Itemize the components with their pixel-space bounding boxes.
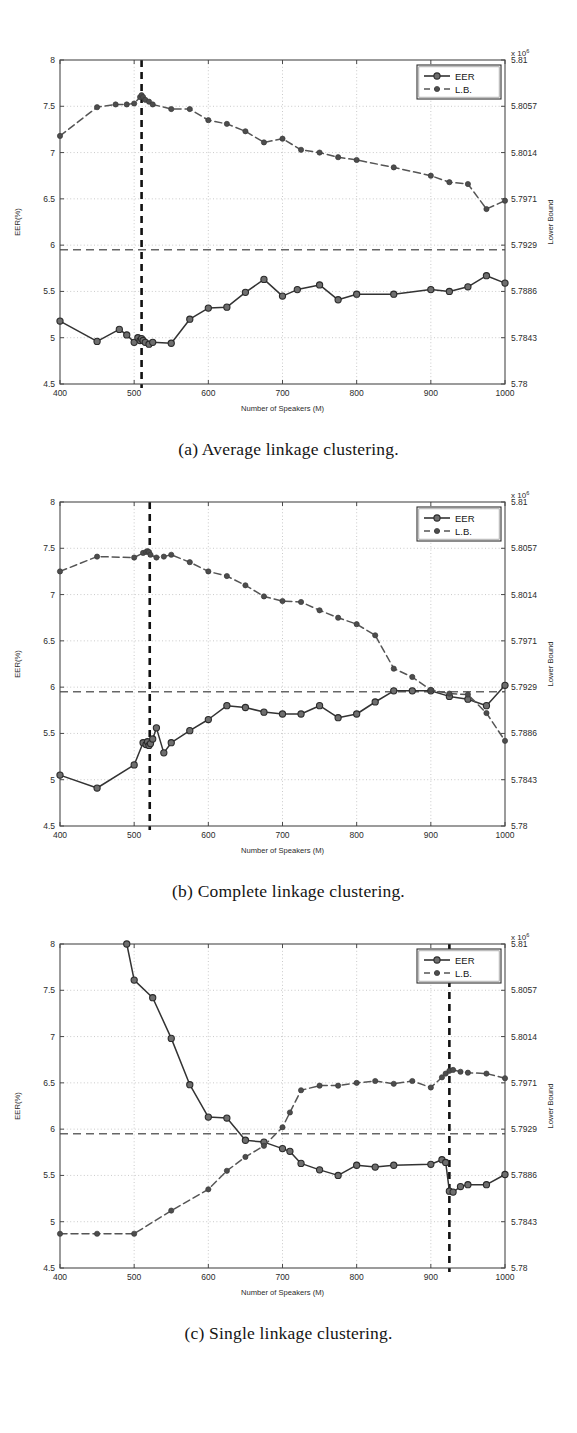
- x-tick-label: 900: [424, 830, 438, 840]
- data-point: [287, 1110, 292, 1115]
- y-tick-label-right: 5.7886: [511, 728, 537, 738]
- y-tick-label-right: 5.7971: [511, 636, 537, 646]
- data-point: [372, 699, 378, 705]
- x-axis-label: Number of Speakers (M): [241, 1288, 325, 1297]
- data-point: [132, 555, 137, 560]
- data-point: [450, 1189, 456, 1195]
- data-point: [298, 599, 303, 604]
- data-point: [391, 1081, 396, 1086]
- fig-a-svg: 400500600700800900100087.576.565.554.55.…: [0, 46, 577, 436]
- data-point: [124, 102, 129, 107]
- data-point: [317, 1083, 322, 1088]
- y-tick-label-left: 5.5: [43, 1170, 55, 1180]
- fig-b-svg: 400500600700800900100087.576.565.554.55.…: [0, 488, 577, 878]
- data-point: [428, 1161, 434, 1167]
- x-axis-label: Number of Speakers (M): [241, 404, 325, 413]
- y-tick-label-left: 4.5: [43, 379, 55, 389]
- data-point: [242, 289, 248, 295]
- x-tick-label: 500: [127, 388, 141, 398]
- x-tick-label: 900: [424, 388, 438, 398]
- legend[interactable]: EERL.B.: [417, 507, 501, 541]
- data-point: [261, 1143, 266, 1148]
- data-point: [57, 133, 62, 138]
- legend-eer-marker: [434, 515, 440, 521]
- data-point: [298, 1160, 304, 1166]
- data-point: [484, 710, 489, 715]
- x-tick-label: 800: [350, 388, 364, 398]
- legend-lb-marker: [434, 970, 439, 975]
- x-tick-label: 400: [53, 830, 67, 840]
- figure-c-caption: (c) Single linkage clustering.: [0, 1323, 577, 1344]
- y-tick-label-left: 8: [50, 497, 55, 507]
- data-point: [94, 1231, 99, 1236]
- data-point: [354, 157, 359, 162]
- data-point: [280, 1125, 285, 1130]
- x-tick-label: 600: [201, 1272, 215, 1282]
- x-tick-label: 900: [424, 1272, 438, 1282]
- data-point: [428, 173, 433, 178]
- data-point: [316, 1167, 322, 1173]
- data-point: [242, 1137, 248, 1143]
- data-point: [409, 688, 415, 694]
- data-point: [336, 155, 341, 160]
- data-point: [94, 785, 100, 791]
- y-tick-label-left: 5.5: [43, 728, 55, 738]
- y-tick-label-left: 6: [50, 1124, 55, 1134]
- data-point: [224, 703, 230, 709]
- data-point: [148, 552, 153, 557]
- data-point: [443, 1159, 449, 1165]
- y-tick-label-right: 5.7843: [511, 775, 537, 785]
- data-point: [335, 715, 341, 721]
- legend-lb-label: L.B.: [455, 84, 472, 95]
- data-point: [187, 560, 192, 565]
- data-point: [410, 1078, 415, 1083]
- y-tick-label-right: 5.78: [511, 1263, 528, 1273]
- data-point: [205, 716, 211, 722]
- y-tick-label-left: 7.5: [43, 543, 55, 553]
- data-point: [447, 180, 452, 185]
- legend[interactable]: EERL.B.: [417, 65, 501, 99]
- grid: [60, 502, 505, 826]
- data-point: [94, 554, 99, 559]
- y-tick-label-right: 5.78: [511, 379, 528, 389]
- data-point: [187, 106, 192, 111]
- legend[interactable]: EERL.B.: [417, 949, 501, 983]
- data-point: [483, 703, 489, 709]
- y-tick-label-left: 5.5: [43, 286, 55, 296]
- data-point: [261, 709, 267, 715]
- legend-lb-marker: [434, 528, 439, 533]
- data-point: [169, 1208, 174, 1213]
- data-point: [132, 1231, 137, 1236]
- data-point: [150, 339, 156, 345]
- data-point: [187, 728, 193, 734]
- figure-b: 400500600700800900100087.576.565.554.55.…: [0, 488, 577, 928]
- data-point: [354, 1162, 360, 1168]
- data-point: [446, 288, 452, 294]
- plot-c-container: 400500600700800900100087.576.565.554.55.…: [0, 930, 577, 1320]
- y-tick-label-left: 6: [50, 682, 55, 692]
- data-point: [116, 326, 122, 332]
- data-point: [336, 1083, 341, 1088]
- y-tick-label-left: 7: [50, 1032, 55, 1042]
- x-tick-label: 400: [53, 388, 67, 398]
- data-point: [465, 181, 470, 186]
- data-point: [243, 129, 248, 134]
- data-point: [206, 118, 211, 123]
- data-point: [57, 569, 62, 574]
- data-point: [224, 1115, 230, 1121]
- legend-eer-label: EER: [455, 71, 475, 82]
- y-tick-label-left: 4.5: [43, 1263, 55, 1273]
- x-tick-label: 700: [275, 830, 289, 840]
- data-point: [465, 1182, 471, 1188]
- data-point: [187, 316, 193, 322]
- data-point: [279, 1145, 285, 1151]
- data-point: [205, 305, 211, 311]
- data-point: [391, 688, 397, 694]
- data-point: [124, 941, 130, 947]
- y-tick-label-left: 7: [50, 590, 55, 600]
- data-point: [391, 666, 396, 671]
- data-point: [294, 286, 300, 292]
- data-point: [261, 594, 266, 599]
- data-point: [153, 725, 159, 731]
- data-point: [168, 1035, 174, 1041]
